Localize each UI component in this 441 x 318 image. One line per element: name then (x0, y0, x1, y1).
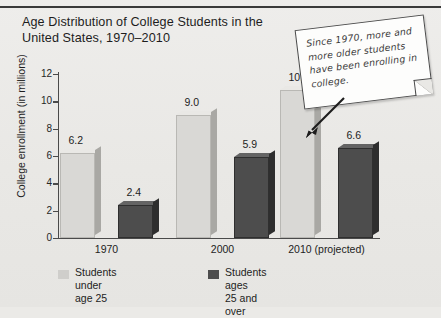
legend-swatch-dark (208, 270, 219, 279)
y-tick-8 (53, 129, 59, 130)
y-tick-label-0: 0 (12, 232, 52, 243)
legend-swatch-light (58, 270, 69, 279)
bar-value-label: 2.4 (127, 186, 142, 198)
legend-label-25-and-over: Students ages 25 and over (225, 266, 266, 318)
bar-1970-series-1 (60, 153, 95, 238)
callout-text: Since 1970, more and more older students… (306, 23, 424, 90)
x-axis-label-2010-projected-: 2010 (projected) (267, 243, 387, 255)
bar-front-face (118, 205, 153, 238)
bar-2000-series-2 (234, 157, 269, 238)
bar-front-face (60, 153, 95, 238)
y-tick-label-4: 4 (12, 177, 52, 188)
y-tick-6 (53, 156, 59, 157)
y-tick-12 (53, 74, 59, 75)
bar-side-face (269, 151, 275, 235)
y-tick-10 (53, 101, 59, 102)
bar-value-label: 9.0 (185, 96, 200, 108)
legend-label-under-25: Students under age 25 (75, 266, 116, 305)
y-tick-label-8: 8 (12, 123, 52, 134)
y-tick-4 (53, 183, 59, 184)
bar-front-face (234, 157, 269, 238)
bar-front-face (338, 148, 373, 238)
x-axis-label-1970: 1970 (47, 243, 167, 255)
bar-value-label: 5.9 (243, 138, 258, 150)
y-tick-label-2: 2 (12, 205, 52, 216)
bar-side-face (373, 141, 379, 235)
bar-2010-projected--series-2 (338, 148, 373, 238)
bar-side-face (211, 108, 217, 235)
bar-front-face (176, 115, 211, 238)
x-axis-label-2000: 2000 (163, 243, 283, 255)
y-tick-0 (53, 238, 59, 239)
page-curl-icon (414, 78, 434, 96)
bar-value-label: 6.2 (69, 134, 84, 146)
bar-2000-series-1 (176, 115, 211, 238)
y-tick-label-10: 10 (12, 95, 52, 106)
y-tick-label-12: 12 (12, 68, 52, 79)
y-tick-label-6: 6 (12, 150, 52, 161)
arrow-icon (300, 96, 346, 142)
bar-value-label: 6.6 (347, 129, 362, 141)
bar-side-face (95, 147, 101, 235)
bar-side-face (153, 198, 159, 235)
bar-1970-series-2 (118, 205, 153, 238)
x-axis-line (58, 238, 380, 239)
y-tick-2 (53, 211, 59, 212)
